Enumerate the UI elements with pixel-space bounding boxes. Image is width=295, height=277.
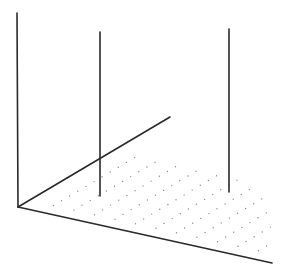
plane-dot xyxy=(122,214,123,215)
plane-dot xyxy=(147,199,148,200)
plane-dot xyxy=(151,180,152,181)
plane-dot xyxy=(196,204,197,205)
plane-dot xyxy=(143,218,144,219)
plane-dot xyxy=(233,232,234,233)
plane-dot xyxy=(102,209,103,210)
plane-dot xyxy=(212,194,213,195)
plane-dot xyxy=(220,189,221,190)
plane-dot xyxy=(216,175,217,176)
plane-dot xyxy=(130,176,131,177)
vertical-axis xyxy=(17,13,18,207)
plane-dot xyxy=(114,186,115,187)
plane-dot xyxy=(208,213,209,214)
plane-dot xyxy=(237,246,238,247)
plane-dot xyxy=(249,222,250,223)
plane-dot xyxy=(200,185,201,186)
plane-dot xyxy=(221,222,222,223)
depth-axis xyxy=(18,117,170,207)
plane-dot xyxy=(192,223,193,224)
plane-dot xyxy=(192,189,193,190)
plane-dot xyxy=(266,212,267,213)
plane-dot xyxy=(204,232,205,233)
plane-dot xyxy=(93,181,94,182)
plane-dot xyxy=(69,195,70,196)
plane-dot xyxy=(257,217,258,218)
plane-dot xyxy=(213,227,214,228)
plane-dot xyxy=(266,245,267,246)
plane-dot xyxy=(253,203,254,204)
impulses-group xyxy=(100,29,229,196)
plane-dot xyxy=(172,218,173,219)
plane-dot xyxy=(155,228,156,229)
plane-dot xyxy=(261,198,262,199)
plane-dot xyxy=(241,227,242,228)
plane-dot xyxy=(237,213,238,214)
plane-dot xyxy=(254,236,255,237)
plane-dot xyxy=(73,209,74,210)
plane-dot xyxy=(204,199,205,200)
plane-dot xyxy=(187,175,188,176)
plane-dot xyxy=(53,205,54,206)
dotted-plane xyxy=(53,157,271,252)
plane-dot xyxy=(81,205,82,206)
plane-dot xyxy=(101,176,102,177)
plane-dot xyxy=(236,180,237,181)
diagram-canvas xyxy=(0,0,295,277)
plane-dot xyxy=(134,157,135,158)
plane-dot xyxy=(270,226,271,227)
plane-dot xyxy=(98,195,99,196)
plane-dot xyxy=(155,195,156,196)
plane-dot xyxy=(167,204,168,205)
plane-dot xyxy=(184,227,185,228)
plane-dot xyxy=(245,241,246,242)
plane-dot xyxy=(179,180,180,181)
plane-dot xyxy=(225,236,226,237)
plane-dot xyxy=(208,180,209,181)
plane-dot xyxy=(85,186,86,187)
plane-dot xyxy=(216,208,217,209)
plane-dot xyxy=(245,208,246,209)
plane-dot xyxy=(131,209,132,210)
plane-dot xyxy=(217,241,218,242)
plane-dot xyxy=(163,190,164,191)
plane-dot xyxy=(94,214,95,215)
plane-dot xyxy=(61,200,62,201)
plane-dot xyxy=(122,181,123,182)
plane-dot xyxy=(171,185,172,186)
plane-dot xyxy=(200,218,201,219)
axes-group xyxy=(17,13,272,263)
plane-dot xyxy=(196,237,197,238)
plane-dot xyxy=(233,199,234,200)
plane-dot xyxy=(195,171,196,172)
diagram-svg xyxy=(0,0,295,277)
plane-dot xyxy=(159,209,160,210)
plane-dot xyxy=(114,219,115,220)
plane-dot xyxy=(77,191,78,192)
plane-dot xyxy=(159,176,160,177)
plane-dot xyxy=(146,166,147,167)
plane-dot xyxy=(224,203,225,204)
plane-dot xyxy=(183,194,184,195)
plane-dot xyxy=(110,171,111,172)
plane-dot xyxy=(175,199,176,200)
plane-dot xyxy=(135,223,136,224)
plane-dot xyxy=(126,195,127,196)
plane-dot xyxy=(118,167,119,168)
plane-dot xyxy=(151,213,152,214)
plane-dot xyxy=(154,162,155,163)
plane-dot xyxy=(188,208,189,209)
plane-dot xyxy=(134,190,135,191)
plane-dot xyxy=(180,213,181,214)
plane-dot xyxy=(262,231,263,232)
plane-dot xyxy=(258,250,259,251)
plane-dot xyxy=(118,200,119,201)
plane-dot xyxy=(167,171,168,172)
plane-dot xyxy=(229,217,230,218)
plane-dot xyxy=(139,204,140,205)
plane-dot xyxy=(163,223,164,224)
plane-dot xyxy=(138,171,139,172)
plane-dot xyxy=(249,189,250,190)
plane-dot xyxy=(175,166,176,167)
plane-dot xyxy=(90,200,91,201)
plane-dot xyxy=(106,190,107,191)
